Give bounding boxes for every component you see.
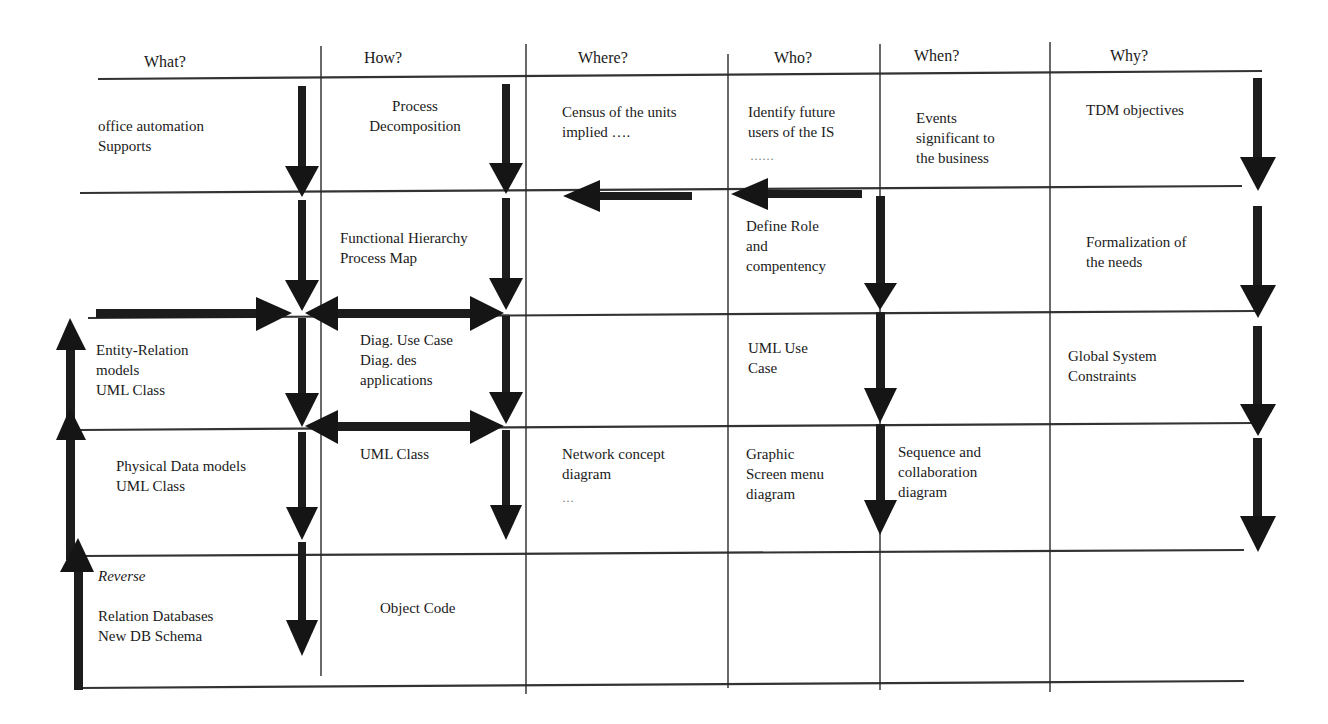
down-arrow xyxy=(864,424,897,535)
cell-r2-how: Functional Hierarchy Process Map xyxy=(340,228,468,268)
cell-r4-how: UML Class xyxy=(360,444,429,464)
cell-r4-when: Sequence and collaboration diagram xyxy=(898,442,981,502)
down-arrow xyxy=(1240,78,1276,191)
up-arrow xyxy=(56,318,86,420)
down-arrow xyxy=(286,542,318,656)
double-headed-arrow xyxy=(305,410,504,444)
cell-r1-who-ellipsis: …… xyxy=(750,146,774,166)
header-how: How? xyxy=(364,48,402,68)
down-arrow xyxy=(286,432,318,540)
down-arrow xyxy=(1240,438,1276,552)
cell-r4-where-ellipsis: … xyxy=(562,488,574,508)
cell-r4-what: Physical Data models UML Class xyxy=(116,456,246,496)
cell-r5-what: Relation Databases New DB Schema xyxy=(98,606,213,646)
header-what: What? xyxy=(144,52,186,72)
row-line-header xyxy=(98,71,1262,79)
cell-r5-how: Object Code xyxy=(380,598,455,618)
row-line-1 xyxy=(80,186,1242,193)
right-arrow xyxy=(96,297,292,331)
row-line-4 xyxy=(80,550,1244,556)
down-arrow xyxy=(490,430,522,540)
header-who: Who? xyxy=(774,48,812,68)
down-arrow xyxy=(489,198,523,310)
cell-r1-who: Identify future users of the IS xyxy=(748,102,835,142)
cell-r1-why: TDM objectives xyxy=(1086,100,1184,120)
down-arrow xyxy=(285,318,319,427)
down-arrow xyxy=(285,86,319,197)
up-arrow xyxy=(60,538,94,690)
left-arrow xyxy=(563,180,692,212)
cell-r2-who: Define Role and compentency xyxy=(746,216,826,276)
cell-r3-why: Global System Constraints xyxy=(1068,346,1157,386)
down-arrow xyxy=(285,200,319,311)
double-headed-arrow xyxy=(305,296,504,331)
cell-r2-why: Formalization of the needs xyxy=(1086,232,1186,272)
cell-r5-what-label: Reverse xyxy=(98,566,145,586)
down-arrow xyxy=(1240,206,1276,318)
cell-r4-where: Network concept diagram xyxy=(562,444,665,484)
left-arrow xyxy=(731,178,862,210)
header-why: Why? xyxy=(1110,46,1148,66)
down-arrow xyxy=(864,196,897,310)
cell-r1-where: Census of the units implied …. xyxy=(562,102,677,142)
cell-r4-who: Graphic Screen menu diagram xyxy=(746,444,824,504)
row-line-3 xyxy=(80,423,1256,430)
cell-r1-what: office automation Supports xyxy=(98,116,204,156)
cell-r1-when: Events significant to the business xyxy=(916,108,995,168)
cell-r3-how: Diag. Use Case Diag. des applications xyxy=(360,330,453,390)
cell-r3-who: UML Use Case xyxy=(748,338,808,378)
cell-r1-how: Process Decomposition xyxy=(360,96,470,136)
down-arrow xyxy=(489,316,523,424)
down-arrow xyxy=(864,312,897,423)
down-arrow xyxy=(489,84,523,194)
row-line-5 xyxy=(80,681,1244,688)
header-where: Where? xyxy=(578,48,628,68)
down-arrow xyxy=(1240,326,1276,436)
cell-r3-what: Entity-Relation models UML Class xyxy=(96,340,188,400)
header-when: When? xyxy=(914,46,959,66)
